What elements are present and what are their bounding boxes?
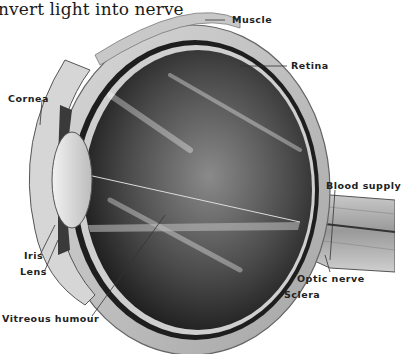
label-iris: Iris: [24, 250, 43, 261]
label-muscle: Muscle: [232, 14, 272, 25]
lens-shape: [52, 132, 92, 228]
label-cornea: Cornea: [8, 93, 49, 104]
label-sclera: Sclera: [284, 289, 320, 300]
label-lens: Lens: [20, 266, 47, 277]
label-vitreous-humour: Vitreous humour: [2, 313, 99, 324]
label-blood-supply: Blood supply: [326, 180, 401, 191]
label-retina: Retina: [291, 60, 329, 71]
label-optic-nerve: Optic nerve: [297, 273, 365, 284]
